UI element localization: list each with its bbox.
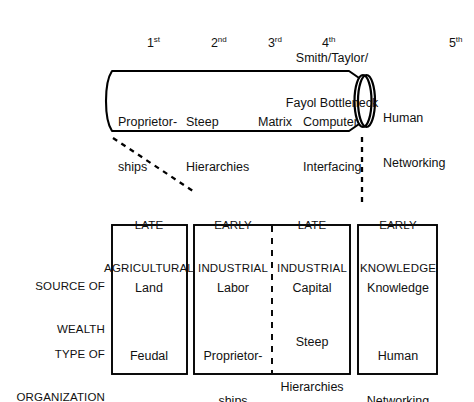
cell-org-late-industrial-line1: Steep [279, 335, 346, 350]
cell-org-early-knowledge-line2: Networking [367, 394, 430, 402]
column-header-early-industrial-line1: EARLY [198, 218, 268, 232]
cell-wealth-early-knowledge-line1: Knowledge [367, 281, 429, 296]
cell-wealth-early-knowledge: Knowledge [367, 250, 429, 326]
funnel-label-proprietorships-line1: Proprietor- [118, 115, 177, 130]
cell-wealth-early-industrial-line1: Labor [217, 281, 249, 296]
cell-wealth-late-industrial-line1: Capital [293, 281, 332, 296]
cell-org-early-industrial-line1: Proprietor- [203, 349, 262, 364]
funnel-label-computer-interfacing-line1: Computer [303, 115, 361, 130]
cell-org-late-industrial: Steep Hierarchies (Matrix) (Interfacing) [279, 304, 346, 402]
cell-wealth-late-agricultural: Land [135, 250, 163, 326]
row-label-type-of-organization: TYPE OF ORGANIZATION [2, 318, 105, 402]
column-header-early-knowledge-line1: EARLY [360, 218, 436, 232]
funnel-label-human-networking-line1: Human [383, 111, 446, 126]
funnel-label-computer-interfacing: Computer Interfacing [303, 84, 361, 206]
column-header-late-agricultural-line1: LATE [104, 218, 194, 232]
cell-org-early-knowledge-line1: Human [367, 349, 430, 364]
column-header-late-industrial-line1: LATE [277, 218, 347, 232]
funnel-label-human-networking: Human Networking [383, 80, 446, 202]
funnel-label-steep-hierarchies-line1: Steep [186, 115, 249, 130]
timeline-marker-5th: 5th [435, 21, 463, 65]
cell-org-early-industrial-line2: ships [203, 394, 262, 402]
cell-org-late-industrial-line2: Hierarchies [279, 380, 346, 395]
funnel-label-human-networking-line2: Networking [383, 156, 446, 171]
funnel-label-steep-hierarchies-line2: Hierarchies [186, 160, 249, 175]
diagram-canvas: 1st 2nd 3rd 4th 5th Smith/Taylor/ Fayol … [0, 0, 474, 402]
funnel-label-matrix: Matrix [258, 84, 292, 160]
bottleneck-annotation-line1: Smith/Taylor/ [286, 51, 378, 66]
funnel-label-steep-hierarchies: Steep Hierarchies [186, 84, 249, 206]
funnel-label-matrix-line1: Matrix [258, 115, 292, 130]
cell-wealth-early-industrial: Labor [217, 250, 249, 326]
row-label-type-of-organization-line2: ORGANIZATION [2, 390, 105, 402]
cell-wealth-late-agricultural-line1: Land [135, 281, 163, 296]
row-label-source-of-wealth-line1: SOURCE OF [2, 279, 105, 293]
cell-org-early-industrial: Proprietor- ships [203, 318, 262, 402]
timeline-marker-3rd: 3rd [254, 21, 282, 65]
funnel-label-proprietorships-line2: ships [118, 160, 177, 175]
timeline-marker-1st: 1st [133, 21, 160, 65]
cell-org-late-agricultural-line1: Feudal [130, 349, 168, 364]
cell-org-late-agricultural: Feudal [130, 318, 168, 394]
funnel-label-proprietorships: Proprietor- ships [118, 84, 177, 206]
timeline-marker-2nd: 2nd [197, 21, 227, 65]
funnel-label-computer-interfacing-line2: Interfacing [303, 160, 361, 175]
row-label-type-of-organization-line1: TYPE OF [2, 347, 105, 361]
cell-org-early-knowledge: Human Networking [367, 318, 430, 402]
